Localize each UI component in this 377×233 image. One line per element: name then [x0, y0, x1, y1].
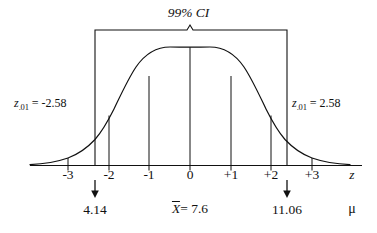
z-equals-upper: =	[310, 96, 317, 110]
z-critical-upper-label: z.01 = 2.58	[292, 97, 340, 111]
normal-distribution-figure	[0, 0, 377, 233]
z-subscript-lower: .01	[19, 102, 29, 112]
z-critical-lower-label: z.01 = -2.58	[14, 97, 66, 111]
z-value-upper: 2.58	[319, 96, 340, 110]
ci-caption: 99% CI	[0, 6, 377, 20]
z-equals-lower: =	[32, 96, 39, 110]
sample-mean-symbol: X	[172, 201, 180, 216]
ci-abbrev-label: CI	[196, 5, 210, 20]
axis-tick-label-plus2: +2	[264, 168, 278, 182]
axis-tick-label-plus1: +1	[224, 168, 238, 182]
z-value-lower: -2.58	[41, 96, 66, 110]
upper-bound-value: 11.06	[272, 203, 302, 217]
sample-mean-value: 7.6	[191, 201, 208, 216]
z-subscript-upper: .01	[297, 102, 307, 112]
axis-tick-label-minus1: -1	[143, 168, 154, 182]
axis-tick-label-plus3: +3	[305, 168, 319, 182]
axis-tick-label-minus2: -2	[103, 168, 114, 182]
population-mean-symbol: μ	[348, 202, 356, 216]
ci-percent-label: 99%	[168, 5, 193, 20]
axis-variable-label: z	[349, 168, 354, 182]
lower-bound-arrow	[91, 180, 99, 198]
sample-mean-equals: =	[180, 201, 188, 216]
axis-tick-label-zero: 0	[187, 168, 194, 182]
ci-brace	[95, 25, 287, 36]
lower-bound-value: 4.14	[83, 203, 107, 217]
sample-mean-label: X= 7.6	[172, 201, 208, 216]
upper-bound-arrow	[283, 180, 291, 198]
axis-tick-label-minus3: -3	[62, 168, 73, 182]
